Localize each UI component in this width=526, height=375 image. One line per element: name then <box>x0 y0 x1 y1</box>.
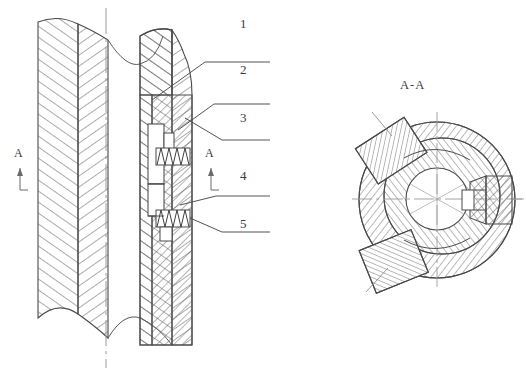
callout-label-1: 1 <box>240 16 247 32</box>
left-wall-outer <box>38 18 78 318</box>
section-arrow-left <box>17 168 28 190</box>
lower-seat <box>160 227 172 241</box>
lower-spring <box>156 210 190 227</box>
section-marker-right: A <box>205 146 214 161</box>
drawing-canvas: 1 2 3 4 5 A A A-A <box>0 0 526 375</box>
callout-label-5: 5 <box>240 216 247 232</box>
leader-3 <box>185 118 270 140</box>
upper-spring <box>156 148 190 165</box>
technical-drawing-svg <box>0 0 526 375</box>
cross-section-view <box>352 112 524 293</box>
section-marker-left: A <box>14 146 23 161</box>
callout-label-4: 4 <box>240 168 247 184</box>
leader-4 <box>180 196 270 205</box>
section-arrow-right <box>208 168 219 190</box>
cross-section-title: A-A <box>400 78 425 93</box>
callout-label-3: 3 <box>240 110 247 126</box>
left-wall-inner <box>78 24 108 338</box>
leader-5 <box>190 218 270 232</box>
longitudinal-section-view <box>17 8 219 368</box>
callout-label-2: 2 <box>240 62 247 78</box>
